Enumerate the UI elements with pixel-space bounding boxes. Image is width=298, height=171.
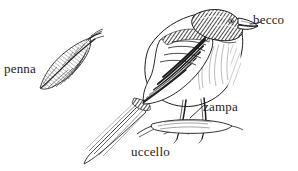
label-uccello: uccello — [131, 145, 170, 158]
feather-illustration — [40, 29, 104, 89]
label-penna: penna — [4, 62, 36, 75]
label-becco: becco — [253, 13, 284, 26]
leader-line-zampa — [190, 106, 203, 118]
illustration-figure: penna becco zampa uccello — [0, 0, 298, 171]
label-zampa: zampa — [203, 100, 238, 113]
bird-illustration — [84, 10, 258, 165]
branch-perch — [137, 120, 243, 137]
